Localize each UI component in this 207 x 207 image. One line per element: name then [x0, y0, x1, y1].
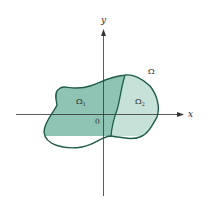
origin-label: 0	[95, 117, 100, 126]
omega-label: Ω	[148, 67, 155, 76]
domain-diagram: y x 0 Ω Ω1 Ω2	[0, 0, 207, 207]
x-axis-label: x	[188, 109, 193, 119]
x-axis-arrow-icon	[177, 112, 184, 117]
y-axis-label: y	[100, 15, 107, 25]
y-axis-arrow-icon	[101, 29, 106, 36]
